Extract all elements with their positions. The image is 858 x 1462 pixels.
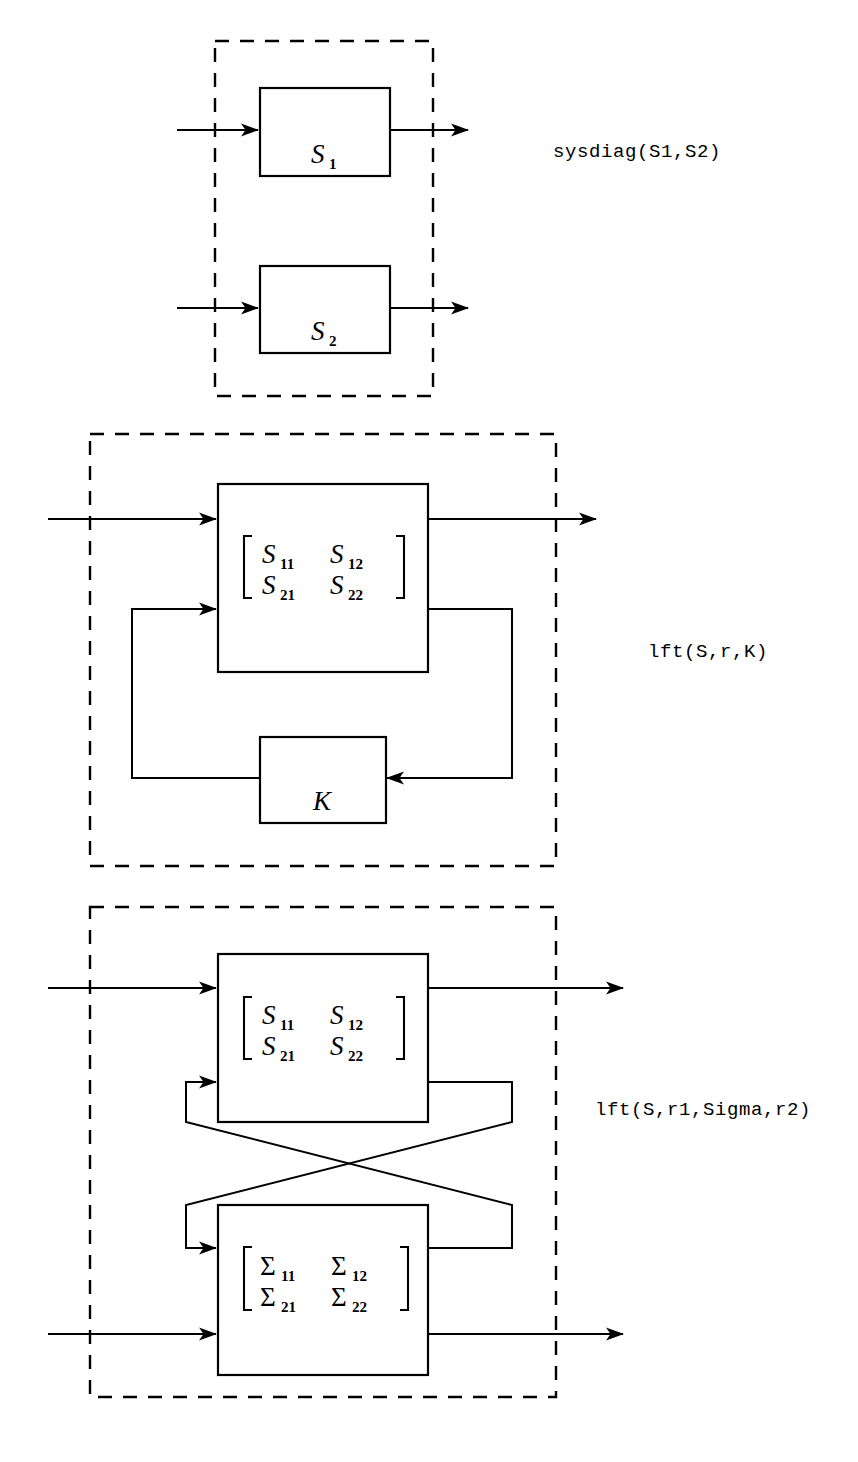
- sysdiag-s1-input-wire: [177, 124, 259, 137]
- sysdiag-label: sysdiag(S1,S2): [553, 141, 721, 163]
- block-sigma-matrix[interactable]: Σ 11 Σ 12 Σ 21 Σ 22: [218, 1205, 428, 1375]
- lft-double-s-input-wire: [48, 982, 217, 995]
- lft-double-s-output-wire: [428, 982, 624, 995]
- svg-text:22: 22: [348, 1048, 363, 1064]
- svg-text:12: 12: [352, 1268, 367, 1284]
- lft-double-label: lft(S,r1,Sigma,r2): [595, 1099, 811, 1121]
- lft-single-output-wire: [428, 513, 597, 526]
- block-k-symbol: K: [312, 786, 333, 816]
- svg-text:22: 22: [348, 587, 363, 603]
- diagram-lft-single: S 11 S 12 S 21 S 22: [48, 434, 768, 866]
- block-k[interactable]: K: [260, 737, 386, 823]
- block-sigma-rect: [218, 1205, 428, 1375]
- sysdiag-s2-output-wire: [390, 302, 469, 315]
- block-s-matrix-lft-double[interactable]: S 11 S 12 S 21 S 22: [218, 954, 428, 1122]
- block-s2-subscript: 2: [329, 333, 337, 349]
- svg-text:S: S: [330, 539, 344, 569]
- diagram-sysdiag: S 1 S 2 sysdiag(S1,S2): [177, 41, 721, 396]
- block-s-matrix-lft-single[interactable]: S 11 S 12 S 21 S 22: [218, 484, 428, 672]
- block-s1[interactable]: S 1: [260, 88, 390, 176]
- svg-text:21: 21: [281, 1299, 296, 1315]
- lft-double-sigma-input-wire: [48, 1328, 217, 1341]
- svg-text:Σ: Σ: [331, 1282, 347, 1312]
- svg-text:11: 11: [280, 556, 294, 572]
- diagram-canvas: S 1 S 2 sysdiag(S1,S2): [0, 0, 858, 1462]
- svg-text:11: 11: [281, 1268, 295, 1284]
- svg-text:S: S: [262, 1000, 276, 1030]
- block-s2[interactable]: S 2: [260, 266, 390, 353]
- block-s2-symbol: S: [311, 316, 325, 346]
- lft-single-label: lft(S,r,K): [648, 641, 768, 663]
- svg-text:Σ: Σ: [260, 1282, 276, 1312]
- svg-text:S: S: [330, 1000, 344, 1030]
- sysdiag-s2-input-wire: [177, 302, 259, 315]
- diagram-lft-double: S 11 S 12 S 21 S 22 Σ 11: [48, 907, 811, 1397]
- svg-text:11: 11: [280, 1017, 294, 1033]
- svg-text:S: S: [330, 1031, 344, 1061]
- svg-text:12: 12: [348, 1017, 363, 1033]
- svg-text:21: 21: [280, 1048, 295, 1064]
- block-s-rect: [218, 484, 428, 672]
- svg-text:Σ: Σ: [260, 1251, 276, 1281]
- svg-text:Σ: Σ: [331, 1251, 347, 1281]
- svg-text:S: S: [330, 570, 344, 600]
- block-s1-symbol: S: [311, 139, 325, 169]
- svg-text:S: S: [262, 570, 276, 600]
- svg-text:22: 22: [352, 1299, 367, 1315]
- svg-text:12: 12: [348, 556, 363, 572]
- block-s1-rect: [260, 88, 390, 176]
- block-s1-subscript: 1: [329, 156, 337, 172]
- svg-text:21: 21: [280, 587, 295, 603]
- sysdiag-s1-output-wire: [390, 124, 469, 137]
- lft-single-input-wire: [48, 513, 217, 526]
- block-s-rect-upper: [218, 954, 428, 1122]
- svg-text:S: S: [262, 1031, 276, 1061]
- lft-double-sigma-output-wire: [428, 1328, 624, 1341]
- svg-text:S: S: [262, 539, 276, 569]
- block-s2-rect: [260, 266, 390, 353]
